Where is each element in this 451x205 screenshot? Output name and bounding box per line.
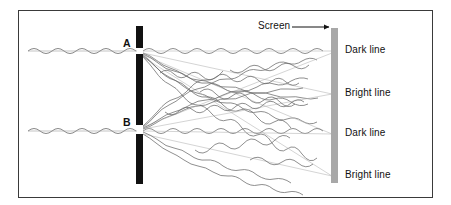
double-slit-barrier [136, 26, 143, 184]
fringe-label-bright-2: Bright line [345, 170, 391, 180]
slit-label-a: A [123, 38, 131, 49]
diffracted-rays-slit-b [143, 53, 332, 195]
incoming-wave-b [28, 129, 137, 134]
incoming-wave-a [28, 49, 137, 54]
screen-bar [331, 28, 338, 183]
figure-root: A B Screen Dark line Bright line Dark li… [0, 0, 451, 205]
screen-label: Screen [258, 21, 290, 31]
slit-label-b: B [123, 117, 131, 128]
diffracted-rays-slit-a [143, 49, 332, 177]
fringe-label-dark-2: Dark line [345, 128, 385, 138]
fringe-label-dark-1: Dark line [345, 45, 385, 55]
fringe-label-bright-1: Bright line [345, 88, 391, 98]
interference-wavelets [160, 63, 313, 167]
